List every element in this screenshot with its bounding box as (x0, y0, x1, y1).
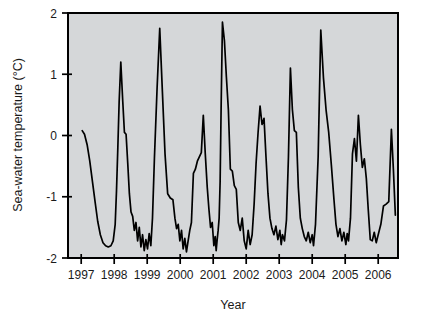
x-tick-label: 2001 (200, 268, 227, 282)
x-tick-label: 1999 (134, 268, 161, 282)
x-tick-label: 1998 (101, 268, 128, 282)
y-tick-label: 1 (50, 68, 57, 82)
sea-water-temperature-chart: -2-1012 19971998199920002001200220032004… (0, 0, 425, 324)
y-axis-title: Sea-water temperature (°C) (11, 58, 25, 212)
x-tick-label: 2005 (332, 268, 359, 282)
x-tick-label: 1997 (68, 268, 95, 282)
y-tick-label: -2 (46, 252, 57, 266)
x-tick-label: 2002 (233, 268, 260, 282)
y-tick-label: 2 (50, 7, 57, 21)
y-tick-label: -1 (46, 190, 57, 204)
x-tick-label: 2006 (365, 268, 392, 282)
x-tick-label: 2000 (167, 268, 194, 282)
x-axis-title: Year (220, 298, 245, 312)
bottom-margin-strip (0, 316, 425, 324)
x-tick-label: 2003 (266, 268, 293, 282)
x-tick-label: 2004 (299, 268, 326, 282)
y-tick-label: 0 (50, 129, 57, 143)
